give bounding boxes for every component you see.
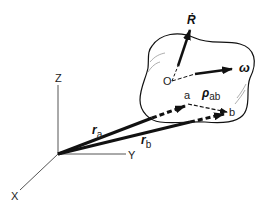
- rho-ab-label: ρab: [201, 86, 221, 102]
- vector-r-a: ra: [58, 106, 185, 154]
- rigid-body-diagram: Z Y X ra rb ρab a b O Ṙ ω: [0, 0, 265, 209]
- z-axis-label: Z: [55, 72, 62, 84]
- omega-label: ω: [239, 60, 250, 75]
- r-a-label: ra: [92, 123, 103, 140]
- vector-r-dot: Ṙ: [172, 12, 196, 81]
- origin-o-label: O: [163, 75, 172, 87]
- rigid-body-outline: [140, 34, 254, 123]
- point-a-label: a: [184, 89, 191, 101]
- x-axis-label: X: [11, 190, 19, 202]
- x-axis: [20, 154, 58, 190]
- r-dot-label: Ṙ: [187, 12, 196, 27]
- point-b-label: b: [229, 106, 235, 118]
- vector-omega: ω: [172, 60, 250, 81]
- vector-rho-ab: ρab: [188, 86, 227, 112]
- vector-r-b: rb: [58, 114, 224, 154]
- coordinate-axes: Z Y X: [11, 72, 136, 202]
- y-axis-label: Y: [128, 149, 136, 161]
- r-b-label: rb: [141, 133, 152, 150]
